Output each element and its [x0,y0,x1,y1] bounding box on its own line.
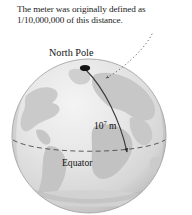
figure-caption: The meter was originally defined as 1/10… [17,4,183,27]
distance-unit: m [109,120,116,131]
distance-label: 107m [94,120,116,131]
equator-label: Equator [62,157,92,168]
distance-exponent: 7 [104,119,107,126]
globe-sphere [12,59,168,213]
earth-meter-definition-figure: The meter was originally defined as 1/10… [0,0,192,215]
globe-illustration [0,0,192,215]
distance-base: 10 [94,120,104,131]
north-pole-marker [80,65,90,71]
north-pole-label: North Pole [49,47,93,58]
